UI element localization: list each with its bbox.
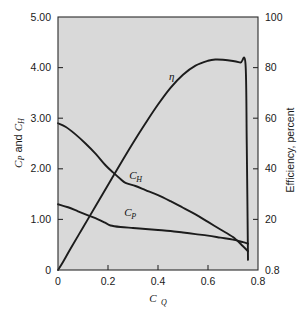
y-right-tick-label: 60 xyxy=(265,112,277,124)
y-right-tick-label: 40 xyxy=(265,162,277,174)
x-tick-label: 0.8 xyxy=(251,275,266,287)
y-right-tick-label: 0.8 xyxy=(265,264,280,276)
y-left-tick-label: 4.00 xyxy=(31,61,52,73)
y-left-tick-label: 1.00 xyxy=(31,213,52,225)
x-tick-label: 0.2 xyxy=(101,275,116,287)
y-axis-right-title: Efficiency, percent xyxy=(284,108,296,193)
y-right-tick-label: 20 xyxy=(265,213,277,225)
x-tick-label: 0.4 xyxy=(151,275,166,287)
y-left-tick-label: 2.00 xyxy=(31,162,52,174)
plot-area-background xyxy=(58,17,258,270)
x-tick-label: 0 xyxy=(55,275,61,287)
y-right-tick-label: 80 xyxy=(265,61,277,73)
y-left-tick-label: 5.00 xyxy=(31,11,52,23)
x-tick-label: 0.6 xyxy=(201,275,216,287)
turbine-coefficient-chart: 00.20.40.60.801.002.003.004.005.000.8204… xyxy=(0,0,307,324)
x-axis-title-base: C xyxy=(149,292,157,304)
curve-label-eta: η xyxy=(169,70,174,82)
x-axis-title-sub: Q xyxy=(161,298,167,307)
y-left-tick-label: 0 xyxy=(45,264,51,276)
y-right-tick-label: 100 xyxy=(265,11,283,23)
y-left-tick-label: 3.00 xyxy=(31,112,52,124)
chart-figure: 00.20.40.60.801.002.003.004.005.000.8204… xyxy=(0,0,307,324)
curve-label-subscript: P xyxy=(130,212,136,221)
